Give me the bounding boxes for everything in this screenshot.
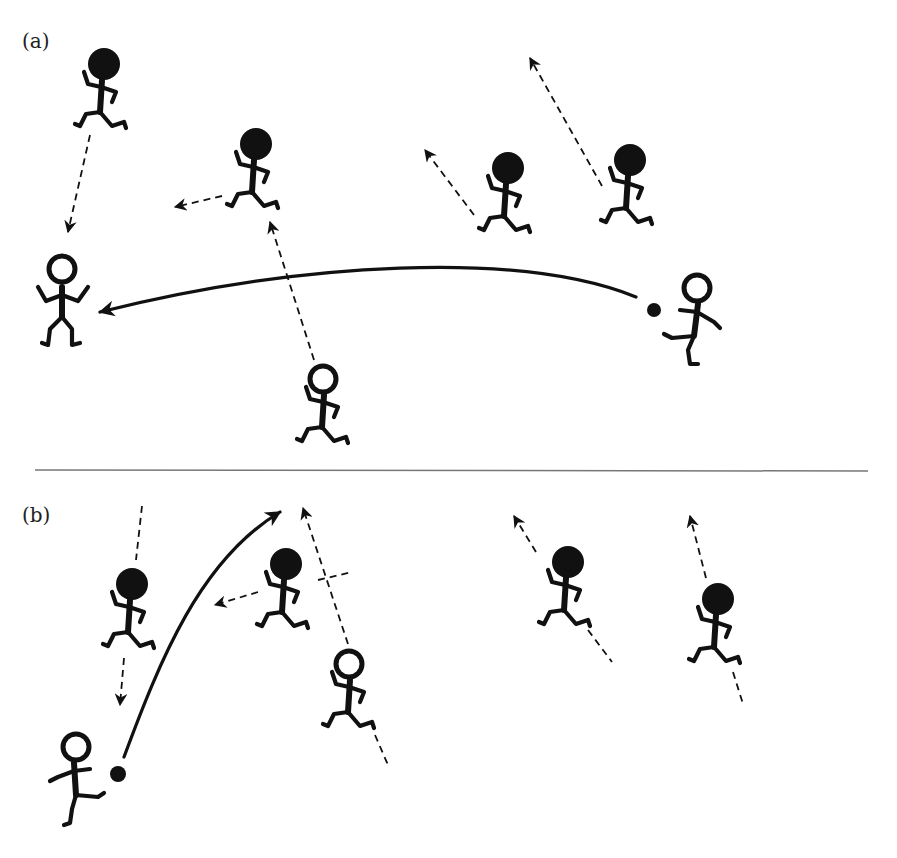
pass-arrow [100, 267, 636, 312]
attacker-kicker-figure [50, 734, 104, 825]
run-trail [375, 735, 388, 765]
run-arrow [530, 58, 602, 186]
run-arrow [690, 516, 706, 578]
run-arrow [68, 135, 90, 232]
defender-figure [75, 48, 126, 128]
defender-figure [601, 144, 652, 224]
attacker-figure [297, 366, 348, 443]
panel-label-b: (b) [22, 503, 50, 527]
tactics-diagram: (a) [0, 0, 897, 858]
run-arrow [270, 222, 314, 360]
run-arrow [514, 516, 536, 552]
run-arrow [215, 592, 258, 605]
run-arrow [425, 150, 474, 215]
ball [647, 303, 661, 317]
pass-arrow [124, 512, 280, 757]
panel-divider [35, 470, 868, 471]
defender-figure [539, 546, 590, 626]
defender-figure [689, 583, 740, 663]
panel-b: (b) [22, 503, 743, 825]
attacker-kicker-figure [664, 275, 720, 364]
defender-figure [227, 128, 278, 208]
defender-figure [103, 568, 154, 648]
run-trail [733, 672, 743, 704]
run-trail [588, 630, 612, 662]
attacker-figure [323, 651, 374, 728]
run-trail [318, 572, 352, 580]
attacker-figure [38, 256, 88, 345]
defender-figure [479, 152, 530, 232]
ball [110, 766, 126, 782]
panel-label-a: (a) [22, 29, 50, 53]
defender-figure [257, 548, 308, 628]
run-arrow [303, 508, 348, 644]
run-arrow [120, 658, 124, 705]
run-trail [136, 506, 142, 560]
panel-a: (a) [22, 29, 720, 443]
run-arrow [175, 196, 222, 207]
